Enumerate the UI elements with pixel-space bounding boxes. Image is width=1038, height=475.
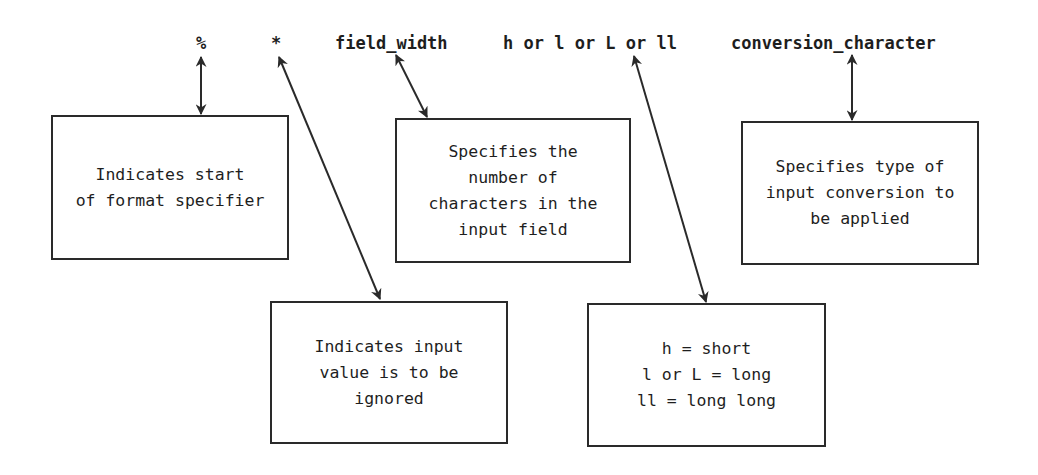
- box-asterisk: Indicates input value is to be ignored: [270, 301, 508, 444]
- box-length-modifier-text: h = short l or L = long ll = long long: [637, 336, 776, 414]
- header-asterisk: *: [271, 33, 281, 53]
- header-field-width: field_width: [335, 33, 448, 53]
- box-percent-text: Indicates start of format specifier: [76, 162, 265, 214]
- box-conversion-character-text: Specifies type of input conversion to be…: [766, 154, 955, 232]
- box-conversion-character: Specifies type of input conversion to be…: [741, 121, 979, 265]
- box-field-width-text: Specifies the number of characters in th…: [429, 139, 598, 243]
- header-conversion-character: conversion_character: [731, 33, 936, 53]
- box-percent: Indicates start of format specifier: [51, 115, 289, 260]
- arrow-asterisk: [279, 57, 380, 299]
- header-percent: %: [196, 33, 206, 53]
- arrow-field-width: [396, 55, 427, 117]
- box-asterisk-text: Indicates input value is to be ignored: [314, 334, 463, 412]
- box-length-modifier: h = short l or L = long ll = long long: [587, 303, 826, 447]
- box-field-width: Specifies the number of characters in th…: [395, 118, 631, 263]
- header-length-modifier: h or l or L or ll: [503, 33, 677, 53]
- arrow-length-modifier: [634, 56, 706, 302]
